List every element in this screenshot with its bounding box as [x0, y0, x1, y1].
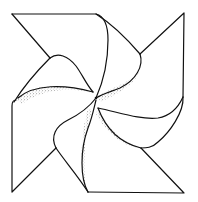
blade-top-right: [96, 13, 184, 118]
pinwheel-illustration: pinwheel line drawing: [0, 0, 198, 202]
blade-bottom-right: [88, 97, 184, 193]
pinwheel-svg: [0, 0, 198, 202]
blade-bottom-left: [12, 98, 96, 192]
center-pin-icon: [95, 97, 98, 100]
